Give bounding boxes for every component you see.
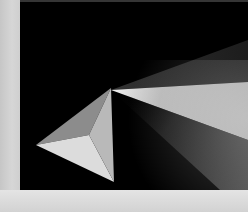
bottom-border-strip	[0, 190, 248, 212]
scene-panel	[20, 0, 248, 190]
image-frame	[0, 0, 248, 212]
prism-illustration	[20, 0, 248, 190]
left-border-strip	[0, 0, 20, 212]
beam-glow	[120, 60, 248, 190]
top-edge-highlight	[20, 0, 248, 2]
